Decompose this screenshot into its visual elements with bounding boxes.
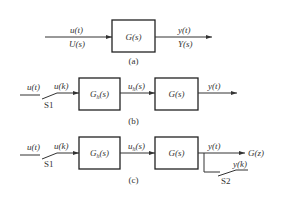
output-label: y(t) [207,81,221,91]
sampled-output-label: y(k) [232,159,247,169]
hold-label: Gh(s) [90,148,109,159]
switch-label-s2: S2 [221,176,231,186]
sampled-label: u(k) [54,141,69,151]
input-label: u(t) [27,82,40,92]
output-label-time: y(t) [177,25,191,35]
branch-line [204,153,220,172]
sampled-label: u(k) [54,81,69,91]
switch-label-s1: S1 [44,100,54,110]
switch-label-s1: S1 [44,159,54,169]
input-label-time: u(t) [70,25,83,35]
plant-label: G(s) [169,89,185,99]
plant-label: G(s) [169,148,185,158]
hold-label: Gh(s) [90,89,109,100]
output-target-label: G(z) [248,148,264,158]
diagram-b: u(t) S1 u(k) Gh(s) uh(s) G(s) y(t) (b) [20,78,237,126]
output-label: y(t) [207,141,221,151]
block-diagrams: u(t) U(s) G(s) y(t) Y(s) (a) u(t) S1 u(k… [0,0,282,199]
plant-label: G(s) [126,32,142,42]
input-label-laplace: U(s) [69,39,85,49]
caption-a: (a) [129,56,139,66]
diagram-a: u(t) U(s) G(s) y(t) Y(s) (a) [45,20,212,66]
output-label-laplace: Y(s) [178,39,193,49]
caption-b: (b) [128,116,139,126]
input-label: u(t) [27,142,40,152]
hold-output-label: uh(s) [128,141,145,152]
diagram-c: u(t) S1 u(k) Gh(s) uh(s) G(s) y(t) G(z) … [20,137,264,186]
sampler-switch-s1 [42,93,57,99]
hold-output-label: uh(s) [128,81,145,92]
caption-c: (c) [129,175,139,185]
